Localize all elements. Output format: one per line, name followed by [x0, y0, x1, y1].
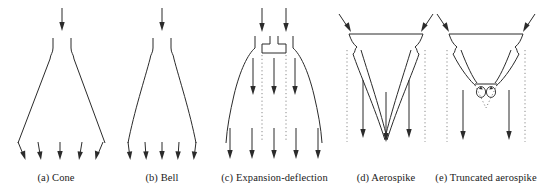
internal-arrow-icon: [292, 58, 297, 95]
recirculation-vortex-icon: [476, 87, 485, 98]
exit-arrow-group: [360, 80, 411, 142]
exit-arrow-group: [127, 142, 197, 160]
bell-diagram: [112, 0, 212, 165]
panel-cone: (a) Cone: [0, 0, 112, 187]
inlet-arrow-icon: [259, 8, 264, 32]
internal-arrow-group: [250, 58, 297, 95]
recirculation-vortex-group: [476, 87, 495, 98]
caption-cone: (a) Cone: [0, 172, 112, 183]
caption-bell: (b) Bell: [112, 172, 212, 183]
inlet-arrow-icon: [339, 14, 351, 32]
panel-bell: (b) Bell: [112, 0, 212, 187]
exit-arrow-group: [18, 142, 103, 160]
aerospike-diagram: [337, 0, 435, 165]
inlet-arrow-icon: [421, 14, 433, 32]
inlet-arrow-icon: [159, 8, 164, 31]
cone-diagram: [0, 0, 112, 165]
exit-arrow-icon: [37, 142, 42, 160]
exit-arrow-icon: [192, 142, 197, 160]
inlet-arrow-icon: [523, 14, 535, 32]
inlet-arrow-group: [339, 14, 433, 32]
exit-arrow-icon: [315, 128, 320, 159]
exit-arrow-icon: [127, 142, 132, 160]
panel-expansion-deflection: (c) Expansion-deflection: [212, 0, 337, 187]
exit-arrow-icon: [506, 90, 511, 140]
exit-arrow-icon: [95, 142, 103, 160]
exit-arrow-icon: [227, 128, 232, 159]
exit-arrow-icon: [175, 142, 180, 160]
exit-arrow-icon: [293, 128, 298, 159]
exit-arrow-icon: [159, 142, 164, 160]
exit-arrow-icon: [249, 128, 254, 159]
inlet-arrow-group: [437, 14, 535, 32]
inlet-arrow-icon: [283, 8, 288, 32]
exit-arrow-group: [227, 128, 320, 159]
exit-arrow-icon: [406, 80, 411, 138]
internal-arrow-icon: [250, 58, 255, 95]
exit-arrow-icon: [18, 142, 26, 160]
internal-arrow-icon: [271, 58, 276, 95]
inlet-arrow-icon: [59, 8, 64, 31]
exit-arrow-icon: [360, 80, 365, 138]
exit-arrow-icon: [143, 142, 148, 160]
caption-expansion-deflection: (c) Expansion-deflection: [207, 172, 342, 183]
recirculation-vortex-icon: [486, 87, 495, 98]
caption-truncated-aerospike: (e) Truncated aerospike: [431, 172, 537, 183]
inlet-arrow-group: [259, 8, 288, 32]
exit-arrow-icon: [57, 142, 62, 160]
exit-arrow-icon: [78, 142, 83, 160]
center-plug: [262, 36, 286, 53]
nozzle-types-figure: (a) Cone (b) Bell: [0, 0, 537, 187]
expansion-deflection-diagram: [212, 0, 337, 165]
panel-aerospike: (d) Aerospike: [337, 0, 435, 187]
inlet-arrow-icon: [437, 14, 449, 32]
exit-arrow-icon: [460, 90, 465, 140]
caption-aerospike: (d) Aerospike: [337, 172, 435, 183]
panel-truncated-aerospike: (e) Truncated aerospike: [435, 0, 537, 187]
exit-arrow-group: [460, 90, 511, 140]
exit-arrow-icon: [271, 128, 276, 159]
exit-arrow-icon: [383, 92, 388, 142]
truncated-aerospike-diagram: [435, 0, 537, 165]
